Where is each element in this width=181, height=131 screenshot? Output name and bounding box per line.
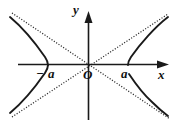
y-axis-arrow-icon [85, 11, 93, 23]
right-vertex-label: a [121, 67, 128, 80]
graph-canvas [0, 0, 181, 131]
left-vertex-label: − a [36, 67, 55, 80]
hyperbola-branch-upper-right [128, 17, 168, 65]
origin-label: O [83, 68, 92, 81]
y-axis-label: y [73, 3, 79, 16]
x-axis-label: x [158, 68, 165, 81]
hyperbola-figure: y x O − a a [0, 0, 181, 131]
